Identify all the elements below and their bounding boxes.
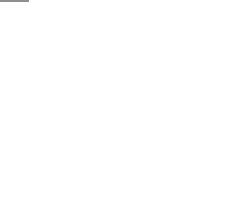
dot-column-right <box>138 0 248 224</box>
dot-tally-canvas <box>0 0 249 224</box>
dot-column-left <box>14 0 124 224</box>
